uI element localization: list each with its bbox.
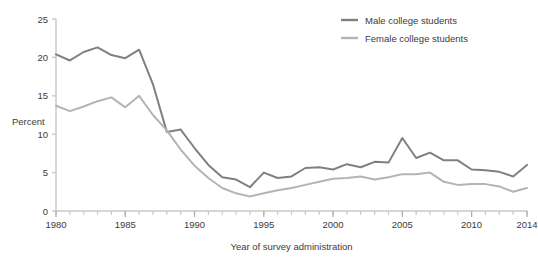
series-line-male — [56, 47, 527, 187]
y-tick-label: 20 — [37, 52, 48, 63]
line-chart: 0510152025198019851990199520002005201020… — [0, 0, 538, 261]
chart-container: 0510152025198019851990199520002005201020… — [0, 0, 538, 261]
x-tick-label: 2000 — [322, 219, 343, 230]
y-tick-label: 10 — [37, 129, 48, 140]
y-tick-label: 25 — [37, 14, 48, 25]
x-tick-label: 2010 — [461, 219, 482, 230]
legend-label-male: Male college students — [365, 15, 457, 26]
y-axis-title: Percent — [12, 116, 45, 127]
y-tick-label: 5 — [43, 167, 48, 178]
x-tick-label: 1990 — [184, 219, 205, 230]
y-tick-label: 15 — [37, 90, 48, 101]
legend-label-female: Female college students — [365, 33, 468, 44]
y-tick-label: 0 — [43, 206, 48, 217]
x-tick-label: 1985 — [115, 219, 136, 230]
x-tick-label: 1980 — [45, 219, 66, 230]
x-tick-label: 2005 — [392, 219, 413, 230]
series-line-female — [56, 96, 527, 197]
x-tick-label: 2014 — [516, 219, 537, 230]
x-axis-title: Year of survey administration — [230, 241, 352, 252]
x-tick-label: 1995 — [253, 219, 274, 230]
